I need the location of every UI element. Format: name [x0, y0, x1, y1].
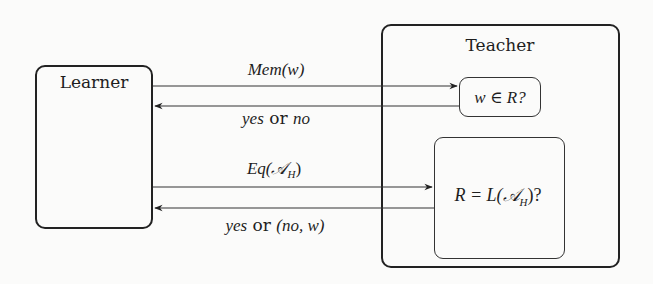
eq-query-main: Eq(𝒜: [247, 159, 288, 178]
mem-query-label: Mem(w): [248, 61, 305, 78]
yes-text: yes: [242, 109, 264, 128]
eq-query-label: Eq(𝒜H): [247, 160, 301, 180]
or-text: or: [269, 108, 287, 128]
yes-text: yes: [225, 216, 247, 235]
mem-answer-label: yes or no: [242, 110, 310, 127]
no-w-text: (no, w): [276, 216, 324, 235]
eq-answer-label: yes or (no, w): [225, 217, 324, 234]
arrows-layer: [0, 0, 653, 284]
no-text: no: [293, 109, 310, 128]
eq-query-subscript: H: [287, 168, 295, 180]
or-text: or: [253, 215, 271, 235]
eq-query-tail: ): [295, 159, 301, 178]
